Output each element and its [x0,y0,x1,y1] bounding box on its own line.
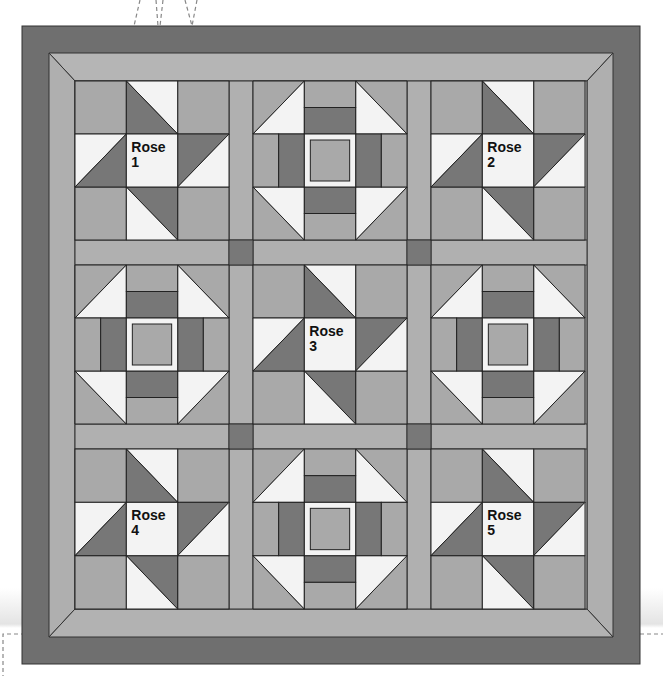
corner-square [75,449,126,502]
corner-square [356,265,407,318]
side-rectangle [381,502,407,555]
corner-square [75,187,126,240]
side-rectangle [304,476,355,503]
block-label-number: 2 [487,154,495,170]
side-rectangle [126,371,177,398]
side-rectangle [279,502,305,555]
block-label-title: Rose [309,323,343,339]
side-rectangle [304,449,355,476]
corner-square [178,81,229,134]
cornerstone [229,424,253,449]
churn-dash-block [253,449,407,609]
corner-square [178,556,229,609]
side-rectangle [279,134,305,187]
side-rectangle [304,582,355,609]
center-inset-square [310,140,349,181]
side-rectangle [356,134,382,187]
quilt-diagram: Rose1Rose2Rose3Rose4Rose5 [0,0,663,676]
corner-square [178,449,229,502]
churn-dash-block [431,265,585,424]
corner-square [534,81,585,134]
corner-square [75,556,126,609]
side-rectangle [304,214,355,241]
block-label-title: Rose [487,507,521,523]
corner-square [75,81,126,134]
side-rectangle [356,502,382,555]
rose-block: Rose2 [431,81,585,240]
side-rectangle [431,318,457,371]
rose-block: Rose5 [431,449,585,609]
corner-square [534,556,585,609]
side-rectangle [101,318,127,371]
side-rectangle [304,187,355,214]
corner-square [253,265,304,318]
center-inset-square [310,508,349,549]
side-rectangle [253,134,279,187]
center-inset-square [132,324,171,365]
churn-dash-block [253,81,407,240]
center-inset-square [488,324,527,365]
block-label-number: 5 [487,522,495,538]
side-rectangle [534,318,560,371]
block-label-number: 4 [131,522,139,538]
side-rectangle [126,292,177,319]
side-rectangle [126,398,177,425]
side-rectangle [482,398,533,425]
corner-square [534,449,585,502]
side-rectangle [304,81,355,108]
corner-square [431,81,482,134]
block-label-title: Rose [131,139,165,155]
side-rectangle [304,556,355,583]
corner-square [253,371,304,424]
side-rectangle [178,318,204,371]
cornerstone [229,240,253,265]
corner-square [356,371,407,424]
side-rectangle [457,318,483,371]
side-rectangle [304,108,355,135]
rose-block: Rose4 [75,449,229,609]
corner-square [534,187,585,240]
side-rectangle [482,265,533,292]
side-rectangle [381,134,407,187]
corner-square [431,449,482,502]
side-rectangle [126,265,177,292]
side-rectangle [253,502,279,555]
side-rectangle [482,292,533,319]
block-label-title: Rose [487,139,521,155]
block-label-number: 1 [131,154,139,170]
cornerstone [407,240,431,265]
side-rectangle [203,318,229,371]
block-label-title: Rose [131,507,165,523]
side-rectangle [75,318,101,371]
corner-square [178,187,229,240]
quilt-blocks: Rose1Rose2Rose3Rose4Rose5 [75,81,585,609]
rose-block: Rose1 [75,81,229,240]
side-rectangle [559,318,585,371]
churn-dash-block [75,265,229,424]
block-label-number: 3 [309,338,317,354]
corner-square [431,187,482,240]
rose-block: Rose3 [253,265,407,424]
corner-square [431,556,482,609]
cornerstone [407,424,431,449]
side-rectangle [482,371,533,398]
